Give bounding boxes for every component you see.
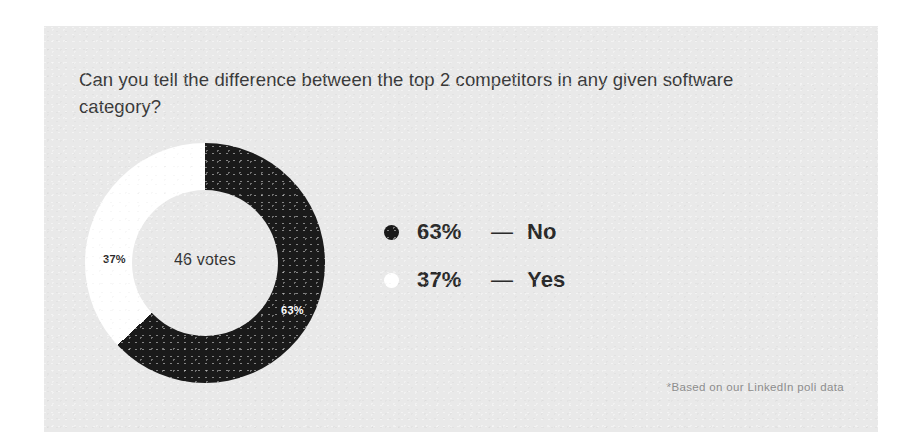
poll-card: Can you tell the difference between the … [44,26,878,432]
legend-dot-no-icon [384,225,399,240]
chart-legend: 63% — No 37% — Yes [384,208,714,304]
legend-dash-yes: — [491,267,513,293]
donut-slice-label-no: 63% [281,304,304,316]
legend-label-no: No [527,219,557,245]
poll-question-title: Can you tell the difference between the … [79,66,779,120]
source-footnote: *Based on our LinkedIn poll data [667,381,844,393]
legend-percent-yes: 37% [417,267,479,293]
legend-label-yes: Yes [527,267,566,293]
legend-dash-no: — [491,219,513,245]
donut-chart: 46 votes 37% 63% [85,143,325,383]
legend-dot-yes-icon [384,273,399,288]
legend-percent-no: 63% [417,219,479,245]
legend-row-no: 63% — No [384,208,714,256]
legend-row-yes: 37% — Yes [384,256,714,304]
donut-slice-label-yes: 37% [103,253,126,265]
